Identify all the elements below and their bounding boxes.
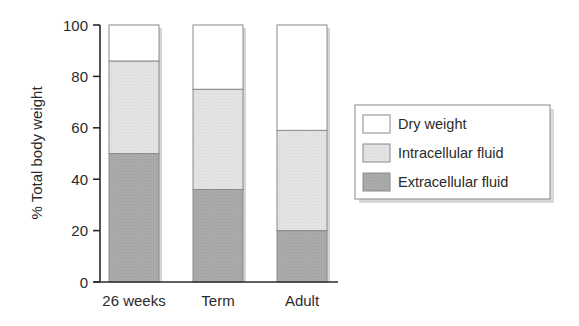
x-tick-label: 26 weeks: [102, 292, 165, 309]
legend-swatch-extracellular-fluid: [363, 173, 390, 191]
bar-26-weeks: 26 weeks: [102, 25, 165, 309]
bar-segment-intracellular-fluid: [193, 89, 243, 189]
bar-adult: Adult: [277, 25, 330, 309]
x-tick-label: Adult: [285, 292, 320, 309]
bar-segment-dry-weight: [277, 25, 327, 130]
y-tick-label: 40: [71, 171, 88, 188]
bar-segment-intracellular-fluid: [109, 61, 159, 154]
bar-segment-extracellular-fluid: [277, 231, 327, 282]
y-tick-label: 0: [80, 274, 88, 291]
y-tick-label: 20: [71, 222, 88, 239]
legend-label: Extracellular fluid: [398, 174, 508, 190]
y-tick-label: 60: [71, 119, 88, 136]
bar-segment-dry-weight: [193, 25, 243, 89]
legend-label: Intracellular fluid: [398, 145, 504, 161]
bar-segment-intracellular-fluid: [277, 130, 327, 230]
bar-segment-extracellular-fluid: [109, 154, 159, 283]
x-tick-label: Term: [201, 292, 234, 309]
legend-label: Dry weight: [398, 116, 467, 132]
bar-segment-extracellular-fluid: [193, 189, 243, 282]
y-tick-label: 80: [71, 68, 88, 85]
bars-group: 26 weeksTermAdult: [102, 25, 330, 309]
stacked-bar-chart: 26 weeksTermAdult 020406080100 Dry weigh…: [0, 0, 579, 326]
legend-swatch-dry-weight: [363, 115, 390, 133]
y-axis-title: % Total body weight: [28, 86, 45, 220]
bar-segment-dry-weight: [109, 25, 159, 61]
bar-term: Term: [193, 25, 246, 309]
legend-swatch-intracellular-fluid: [363, 144, 390, 162]
y-tick-label: 100: [63, 17, 88, 34]
legend: Dry weightIntracellular fluidExtracellul…: [355, 105, 554, 203]
